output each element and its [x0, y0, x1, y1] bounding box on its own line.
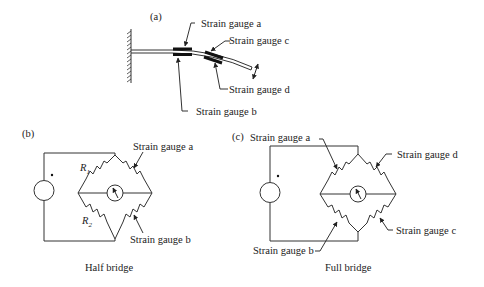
panel-b-caption: Half bridge [85, 262, 133, 273]
panel-c-tag: (c) [232, 131, 244, 143]
panel-b-tag: (b) [22, 128, 35, 140]
label-r1: R1 [79, 162, 90, 176]
panel-b-label-gauge-a: Strain gauge a [133, 141, 193, 152]
panel-b-half-bridge: (b) R1 R2 Strain gauge a Strain gauge b … [22, 128, 193, 273]
panel-a-label-gauge-a: Strain gauge a [201, 18, 261, 29]
panel-c-caption: Full bridge [325, 262, 372, 273]
deflection-arrow-icon [253, 64, 258, 79]
panel-a-cantilever: (a) [127, 11, 290, 117]
panel-c-label-gauge-c: Strain gauge c [396, 225, 456, 236]
strain-gauge-diagram: (a) [0, 0, 484, 287]
panel-c-label-gauge-d: Strain gauge d [397, 149, 458, 160]
panel-b-label-gauge-b: Strain gauge b [130, 234, 191, 245]
gauge-a-patch [173, 48, 192, 51]
panel-a-label-gauge-d: Strain gauge d [229, 84, 290, 95]
fixed-wall [127, 29, 131, 83]
panel-c-full-bridge: (c) Strain gauge a Strain gauge d Strain… [232, 131, 458, 273]
panel-a-label-gauge-c: Strain gauge c [229, 35, 289, 46]
panel-c-label-gauge-b: Strain gauge b [253, 245, 314, 256]
panel-a-label-gauge-b: Strain gauge b [196, 106, 257, 117]
gauge-b-patch [173, 53, 192, 56]
voltage-source-icon [34, 181, 54, 201]
panel-c-label-gauge-a: Strain gauge a [250, 132, 310, 143]
label-r2: R2 [81, 215, 92, 229]
voltage-source-icon [260, 183, 280, 203]
panel-a-tag: (a) [150, 11, 162, 23]
